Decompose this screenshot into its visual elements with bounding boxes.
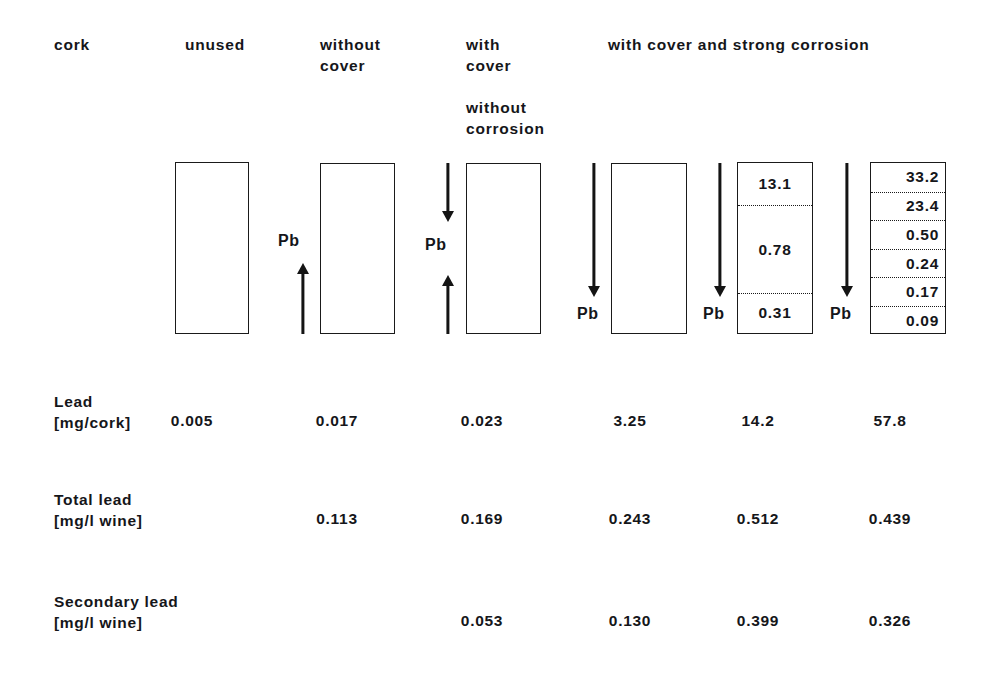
cork-unused-rect: [175, 162, 249, 334]
column-header-without-cover: without cover: [320, 34, 381, 76]
row-label-secondary-lead: Secondary lead [mg/l wine]: [54, 591, 178, 633]
row-label-lead: Lead [mg/cork]: [54, 391, 131, 433]
table-cell: 0.053: [432, 612, 532, 630]
cork-segment-value: 0.24: [871, 249, 945, 278]
cork-corrosion-2-rect: 13.1 0.78 0.31: [737, 162, 813, 334]
table-cell: 0.439: [840, 510, 940, 528]
cork-segment-value: 0.31: [738, 293, 812, 332]
pb-label-cork-corrosion-1: Pb: [577, 305, 599, 323]
cork-corrosion-3-rect: 33.2 23.4 0.50 0.24 0.17 0.09: [870, 162, 946, 334]
pb-label-cork-corrosion-3: Pb: [830, 305, 852, 323]
table-cell: 0.130: [580, 612, 680, 630]
cork-segment-value: 33.2: [871, 163, 945, 192]
table-cell: 0.512: [708, 510, 808, 528]
table-cell: 3.25: [580, 412, 680, 430]
group-header-with-cover-and-strong-corrosion: with cover and strong corrosion: [608, 34, 870, 55]
table-cell: 0.326: [840, 612, 940, 630]
table-cell: 0.399: [708, 612, 808, 630]
lead-cork-figure: cork unused without cover with cover wit…: [0, 0, 1004, 674]
column-header-without-corrosion: without corrosion: [466, 97, 545, 139]
row-label-total-lead: Total lead [mg/l wine]: [54, 489, 143, 531]
table-cell: 57.8: [840, 412, 940, 430]
cork-segment-value: 0.78: [738, 205, 812, 293]
cork-segment-value: 23.4: [871, 192, 945, 221]
table-cell: 0.169: [432, 510, 532, 528]
cork-without-cover-rect: [320, 163, 395, 334]
cork-segment-value: 13.1: [738, 163, 812, 205]
table-cell: 0.023: [432, 412, 532, 430]
arrow-up-icon-cork-without-cover: [296, 263, 310, 334]
arrow-down-icon-cork-with-cover: [441, 163, 455, 222]
table-cell: 0.243: [580, 510, 680, 528]
arrow-down-icon-cork-corrosion-3: [840, 163, 854, 297]
arrow-up-icon-cork-with-cover: [441, 275, 455, 334]
cork-segment-value: 0.50: [871, 220, 945, 249]
column-header-with-cover: with cover: [466, 34, 511, 76]
pb-label-cork-with-cover: Pb: [425, 236, 447, 254]
cork-corrosion-1-rect: [611, 163, 687, 334]
table-cell: 14.2: [708, 412, 808, 430]
arrow-down-icon-cork-corrosion-1: [587, 163, 601, 297]
column-header-unused: unused: [185, 34, 245, 55]
cork-segment-value: 0.09: [871, 306, 945, 335]
pb-label-cork-corrosion-2: Pb: [703, 305, 725, 323]
table-cell: 0.113: [287, 510, 387, 528]
cork-with-cover-no-corrosion-rect: [466, 163, 541, 334]
row-header-cork: cork: [54, 34, 90, 55]
table-cell: 0.005: [142, 412, 242, 430]
pb-label-cork-without-cover: Pb: [278, 232, 300, 250]
table-cell: 0.017: [287, 412, 387, 430]
cork-segment-value: 0.17: [871, 277, 945, 306]
arrow-down-icon-cork-corrosion-2: [713, 163, 727, 297]
